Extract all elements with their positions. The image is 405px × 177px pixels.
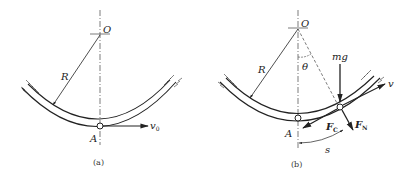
weight-label-b: mg <box>332 51 348 62</box>
velocity-arrow-b <box>343 84 385 105</box>
diagram-canvas: O R v0 A <box>0 0 405 177</box>
tube-inner-arc-b <box>226 76 374 114</box>
normal-arrow-b <box>342 110 353 130</box>
figure-a: O R v0 A <box>21 10 182 167</box>
radius-label-b: R <box>257 64 266 75</box>
point-label-a: A <box>89 133 97 144</box>
velocity-label-a: v0 <box>150 120 160 132</box>
figure-b: O R θ A <box>218 10 394 169</box>
point-label-b: A <box>284 128 292 139</box>
normal-label-b: FN <box>354 119 368 131</box>
hatch-right-b <box>361 70 384 83</box>
center-label-a: O <box>103 24 111 35</box>
tube-outer-arc-b <box>220 78 380 121</box>
arc-length-label-b: s <box>325 144 330 155</box>
ball-displaced-b <box>337 104 343 110</box>
center-label-b: O <box>301 18 309 29</box>
angle-label-b: θ <box>302 61 308 72</box>
ball-at-a-b <box>295 115 301 121</box>
ball-a <box>97 123 103 129</box>
radius-line-a <box>53 35 100 105</box>
friction-label-b: FC <box>325 121 338 133</box>
angle-arc-b <box>298 54 311 57</box>
tube-inner-arc-a <box>28 80 170 119</box>
radius-label-a: R <box>60 71 69 82</box>
caption-a: (a) <box>93 158 104 167</box>
caption-b: (b) <box>291 160 302 169</box>
velocity-label-b: v <box>388 78 394 89</box>
